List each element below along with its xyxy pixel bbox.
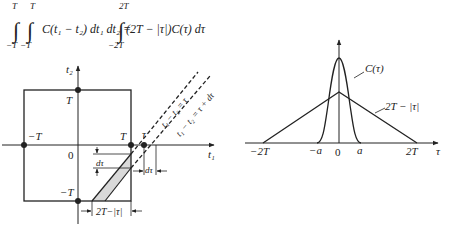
dtau-horizontal-label: dτ	[145, 165, 154, 175]
tick-a: a	[357, 144, 363, 156]
label-tau: τ	[142, 128, 147, 140]
int2-upper: T	[30, 1, 36, 11]
t2-label: t₂	[66, 63, 73, 75]
left-labels: t₂ t₁ T −T T τ 0 −T dτ dτ 2T−|τ| t₁ − t₂…	[28, 63, 217, 217]
label-zero: 0	[68, 149, 74, 161]
label-negT-bottom: −T	[60, 186, 74, 198]
label-T-right: T	[120, 130, 127, 142]
width-label: 2T−|τ|	[96, 206, 122, 217]
tick-neg-a: −a	[309, 144, 322, 156]
diagram-canvas: T T ∫ ∫ −T −T C(t₁ − t₂) dt₁ dt₂ = 2T ∫ …	[0, 0, 455, 232]
tick-zero: 0	[335, 146, 341, 158]
rhs-int-lower: −2T	[108, 40, 125, 50]
line-tau	[131, 72, 198, 154]
triangle-label: 2T − |τ|	[385, 100, 419, 112]
tau-axis-label: τ	[436, 145, 441, 157]
C-tau-label: C(τ)	[365, 62, 384, 75]
tick-2T: 2T	[406, 145, 419, 157]
dtau-vertical-label: dτ	[96, 158, 105, 168]
equation: T T ∫ ∫ −T −T C(t₁ − t₂) dt₁ dt₂ = 2T ∫ …	[6, 1, 206, 50]
right-diagram	[245, 40, 438, 143]
rhs-int-upper: 2T	[119, 1, 130, 11]
rhs-integrand: (2T − |τ|)C(τ) dτ	[126, 22, 206, 36]
t1-label: t₁	[208, 148, 215, 160]
int2-lower: −T	[20, 40, 32, 50]
left-diagram	[2, 66, 214, 224]
label-T-top: T	[66, 94, 73, 106]
tick-neg2T: −2T	[250, 145, 270, 157]
label-negT-left: −T	[28, 130, 42, 142]
int1-upper: T	[12, 1, 18, 11]
int1-lower: −T	[6, 40, 18, 50]
